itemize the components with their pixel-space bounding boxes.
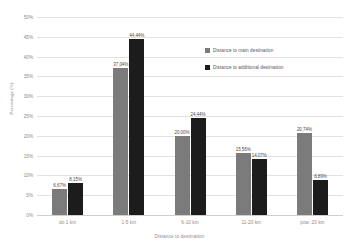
x-axis-line bbox=[37, 215, 343, 216]
bar-group: 20,74%8,89% bbox=[282, 17, 343, 215]
bar-value-label: 20,00% bbox=[175, 130, 190, 135]
chart-legend: Distance to main destinationDistance to … bbox=[205, 48, 284, 82]
y-axis-tick-label: 15% bbox=[24, 153, 33, 158]
y-axis-tick-label: 0% bbox=[26, 213, 33, 218]
bar-chart: 0%5%10%15%20%25%30%35%40%45%50% 6,67%8,1… bbox=[0, 0, 359, 251]
bar[interactable]: 20,74% bbox=[297, 133, 312, 215]
bar-slot: 15,56% bbox=[236, 17, 251, 215]
x-axis-title: Distance to destination bbox=[0, 234, 359, 239]
bar-value-label: 24,44% bbox=[191, 112, 206, 117]
y-axis-tick-label: 10% bbox=[24, 173, 33, 178]
bar-slot: 6,67% bbox=[52, 17, 67, 215]
bar-slot: 14,07% bbox=[252, 17, 267, 215]
bar[interactable]: 8,15% bbox=[68, 183, 83, 215]
x-axis-tick-label: 1-5 km bbox=[98, 220, 159, 225]
y-axis-tick-label: 35% bbox=[24, 74, 33, 79]
bar-slot: 8,89% bbox=[313, 17, 328, 215]
y-axis-tick-label: 20% bbox=[24, 133, 33, 138]
bar-groups: 6,67%8,15%37,04%44,44%20,00%24,44%15,56%… bbox=[37, 17, 343, 215]
legend-item[interactable]: Distance to main destination bbox=[205, 48, 284, 53]
y-axis-tick-label: 50% bbox=[24, 15, 33, 20]
bar[interactable]: 24,44% bbox=[191, 118, 206, 215]
legend-label: Distance to additional destination bbox=[213, 65, 284, 70]
y-axis-tick-label: 40% bbox=[24, 54, 33, 59]
x-axis-tick-label: 11-20 km bbox=[221, 220, 282, 225]
y-axis-tick-label: 25% bbox=[24, 114, 33, 119]
bar-slot: 20,74% bbox=[297, 17, 312, 215]
bar-group: 37,04%44,44% bbox=[98, 17, 159, 215]
bar[interactable]: 37,04% bbox=[113, 68, 128, 215]
bar-value-label: 8,89% bbox=[314, 174, 327, 179]
bar-group: 6,67%8,15% bbox=[37, 17, 98, 215]
legend-swatch-icon bbox=[205, 48, 210, 53]
legend-label: Distance to main destination bbox=[213, 48, 273, 53]
bar-value-label: 44,44% bbox=[129, 33, 144, 38]
legend-swatch-icon bbox=[205, 65, 210, 70]
bar-value-label: 37,04% bbox=[113, 62, 128, 67]
bar[interactable]: 44,44% bbox=[129, 39, 144, 215]
bar[interactable]: 8,89% bbox=[313, 180, 328, 215]
bar[interactable]: 20,00% bbox=[175, 136, 190, 215]
y-axis-tick-label: 30% bbox=[24, 94, 33, 99]
bar-slot: 37,04% bbox=[113, 17, 128, 215]
bar-slot: 44,44% bbox=[129, 17, 144, 215]
y-axis-title: Percentage (%) bbox=[9, 69, 14, 129]
x-axis-tick-label: 6-10 km bbox=[159, 220, 220, 225]
bar-value-label: 6,67% bbox=[53, 183, 66, 188]
y-axis-tick-label: 5% bbox=[26, 193, 33, 198]
bar-value-label: 20,74% bbox=[297, 127, 312, 132]
x-axis-tick-label: pow. 20 km bbox=[282, 220, 343, 225]
x-axis-tick-label: do 1 km bbox=[37, 220, 98, 225]
bar[interactable]: 15,56% bbox=[236, 153, 251, 215]
bar-slot: 24,44% bbox=[191, 17, 206, 215]
y-axis-tick-label: 45% bbox=[24, 34, 33, 39]
bar-slot: 20,00% bbox=[175, 17, 190, 215]
bar[interactable]: 14,07% bbox=[252, 159, 267, 215]
bar-group: 15,56%14,07% bbox=[221, 17, 282, 215]
bar-slot: 8,15% bbox=[68, 17, 83, 215]
bar-value-label: 14,07% bbox=[252, 153, 267, 158]
bar-value-label: 15,56% bbox=[236, 147, 251, 152]
x-axis-tick-labels: do 1 km1-5 km6-10 km11-20 kmpow. 20 km bbox=[37, 220, 343, 225]
bar-value-label: 8,15% bbox=[69, 177, 82, 182]
legend-item[interactable]: Distance to additional destination bbox=[205, 65, 284, 70]
bar-group: 20,00%24,44% bbox=[159, 17, 220, 215]
bar[interactable]: 6,67% bbox=[52, 189, 67, 215]
